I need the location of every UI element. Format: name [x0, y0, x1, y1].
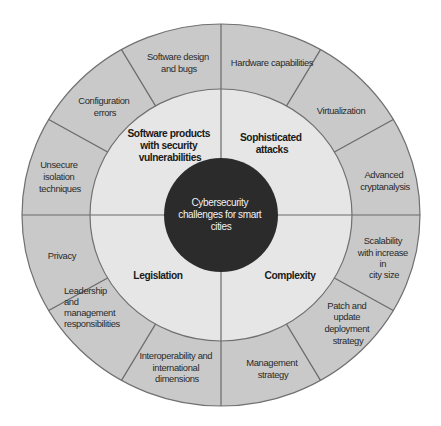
category-legislation: Legislation — [133, 270, 183, 281]
category-complexity: Complexity — [265, 270, 317, 281]
item-unsecure-isolation: Unsecure isolation techniques — [39, 159, 82, 194]
item-virtualization: Virtualization — [317, 105, 366, 116]
item-privacy: Privacy — [48, 250, 77, 261]
item-advanced-cryptanalysis: Advanced cryptanalysis — [360, 169, 410, 192]
item-hardware-capabilities: Hardware capabilities — [231, 57, 314, 68]
cybersecurity-diagram: Cybersecurity challenges for smart citie… — [0, 0, 441, 426]
